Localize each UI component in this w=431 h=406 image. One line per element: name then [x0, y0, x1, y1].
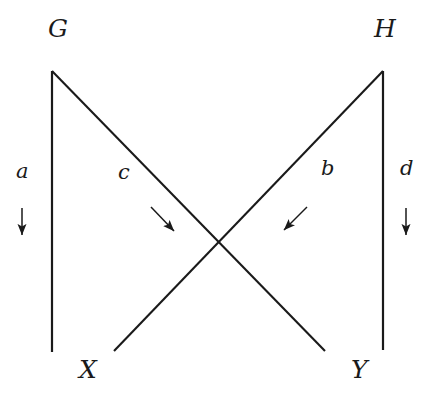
diagram-canvas: G H X Y a c b d [0, 0, 431, 406]
edge-label-b: b [321, 158, 334, 179]
edge-label-a: a [16, 161, 29, 182]
diagram-lines-svg [0, 0, 431, 406]
edge-label-c: c [118, 162, 130, 183]
edge-line-c [52, 71, 325, 351]
node-label-Y: Y [351, 357, 368, 382]
edge-label-d: d [400, 158, 413, 179]
direction-arrow-c-icon [151, 207, 174, 231]
node-label-G: G [48, 16, 68, 41]
node-label-H: H [374, 16, 396, 41]
node-label-X: X [79, 357, 97, 382]
direction-arrow-b-icon [284, 207, 307, 230]
